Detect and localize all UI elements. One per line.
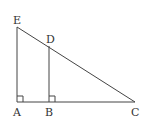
segment-ec (17, 27, 135, 102)
label-d: D (46, 33, 55, 46)
label-c: C (131, 106, 139, 119)
right-angle-marker-a (17, 96, 23, 102)
geometry-diagram: E D A B C (0, 0, 153, 131)
label-a: A (12, 106, 22, 119)
label-e: E (13, 14, 21, 27)
right-angle-marker-b (49, 96, 55, 102)
label-b: B (45, 106, 53, 119)
